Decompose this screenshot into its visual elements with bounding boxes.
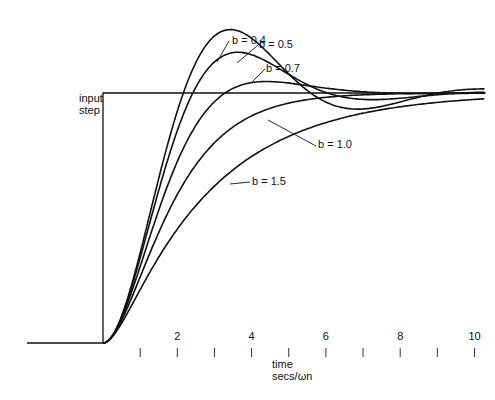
input-step-label: input	[79, 92, 103, 104]
leader-line	[230, 182, 250, 184]
response-curve-b-1	[103, 93, 485, 343]
response-curve-b-0-7	[103, 82, 485, 344]
x-tick-label: 2	[174, 330, 180, 342]
time-axis: 246810timesecs/ωninputstep	[79, 92, 481, 382]
curve-labels: b = 0.4b = 0.5b = 0.7b = 1.0b = 1.5	[217, 34, 352, 187]
x-axis-label: secs/ωn	[272, 370, 312, 382]
curve-label: b = 1.5	[252, 175, 286, 187]
leader-line	[252, 69, 265, 82]
curve-label: b = 0.5	[259, 38, 293, 50]
response-curve-b-1-5	[103, 99, 485, 343]
x-tick-label: 8	[397, 330, 403, 342]
leader-line	[237, 45, 258, 63]
curve-label: b = 1.0	[318, 138, 352, 150]
x-tick-label: 4	[249, 330, 255, 342]
x-axis-label: time	[272, 358, 293, 370]
input-step-label: step	[79, 104, 100, 116]
input-step-line	[27, 93, 486, 343]
curve-label: b = 0.7	[266, 62, 300, 74]
x-tick-label: 6	[323, 330, 329, 342]
step-response-diagram: 246810timesecs/ωninputstep b = 0.4b = 0.…	[0, 0, 495, 400]
response-curve-b-0-5	[103, 52, 485, 343]
x-tick-label: 10	[468, 330, 480, 342]
leader-line	[217, 41, 229, 62]
